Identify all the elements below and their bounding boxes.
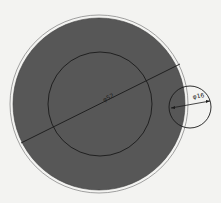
drawing-canvas: φ52 φ16 [0, 0, 221, 203]
small-diameter-label: φ16 [192, 91, 205, 101]
